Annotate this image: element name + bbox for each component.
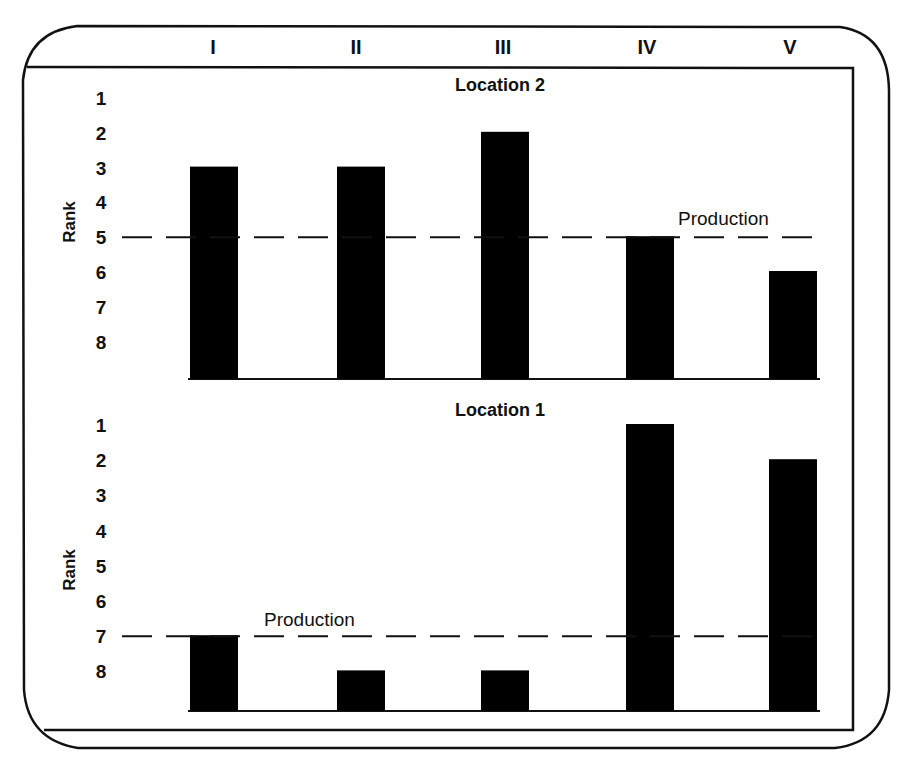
y-tick-label: 7 [96,626,107,647]
bar-II [337,167,385,379]
y-tick-label: 8 [96,332,107,353]
panel-location-2: Location 2 Rank 12345678 Production [60,75,820,379]
category-label: I [210,36,216,58]
y-tick-label: 6 [96,591,107,612]
y-tick-label: 3 [96,485,107,506]
y-tick-label: 3 [96,158,107,179]
y-axis-ticks: 12345678 [96,88,107,353]
y-tick-label: 6 [96,262,107,283]
y-tick-label: 7 [96,297,107,318]
production-annotation: Production [264,609,355,630]
y-tick-label: 8 [96,661,107,682]
y-axis-ticks: 12345678 [96,415,107,682]
category-header: I II III IV V [210,36,797,58]
outer-frame [23,26,889,748]
bar-I [190,635,238,711]
bar-V [769,271,817,379]
category-label: III [495,36,512,58]
panel-title: Location 1 [455,400,545,420]
bar-V [769,459,817,711]
panel-location-1: Location 1 Rank 12345678 Production [60,400,820,711]
bar-III [481,670,529,711]
y-tick-label: 5 [96,227,107,248]
y-tick-label: 4 [96,521,107,542]
rank-bar-chart: I II III IV V Location 2 Rank 12345678 P… [0,0,913,772]
inner-frame [27,67,853,730]
y-tick-label: 2 [96,450,107,471]
y-tick-label: 2 [96,123,107,144]
category-label: IV [638,36,658,58]
bars [190,132,817,379]
bar-III [481,132,529,379]
bar-IV [626,236,674,379]
y-tick-label: 4 [96,192,107,213]
production-annotation: Production [678,208,769,229]
bars [190,424,817,711]
bar-I [190,167,238,379]
category-label: V [783,36,797,58]
bar-II [337,670,385,711]
category-label: II [350,36,361,58]
y-tick-label: 1 [96,88,107,109]
bar-IV [626,424,674,711]
y-axis-label: Rank [60,201,79,243]
y-tick-label: 5 [96,556,107,577]
y-axis-label: Rank [60,549,79,591]
y-tick-label: 1 [96,415,107,436]
panel-title: Location 2 [455,75,545,95]
